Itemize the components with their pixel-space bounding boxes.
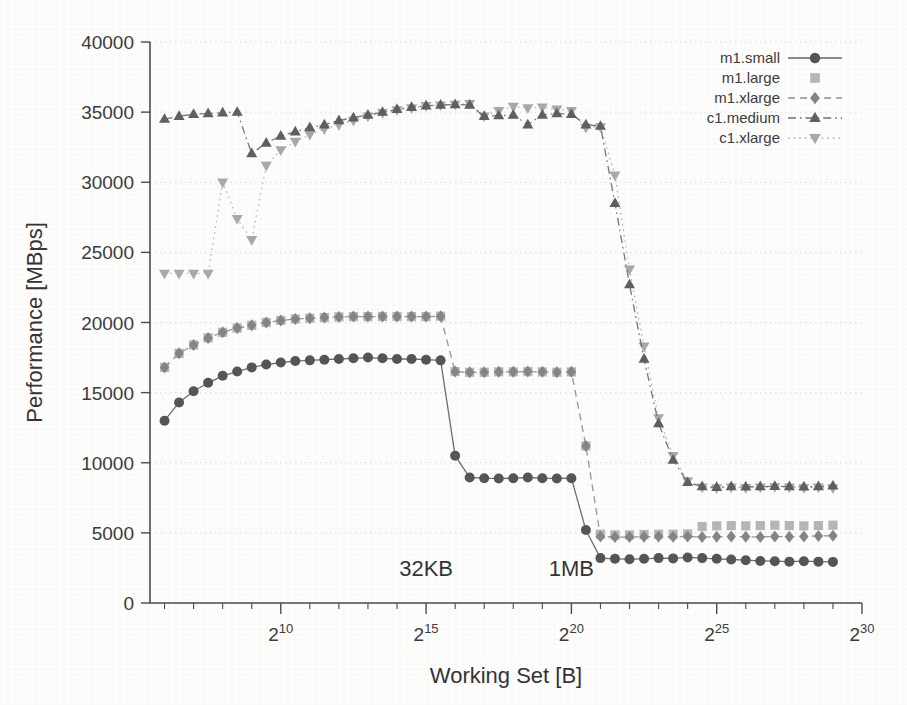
y-tick-label: 10000	[81, 453, 134, 474]
marker-circle	[784, 557, 794, 567]
marker-diamond	[727, 530, 736, 542]
marker-triangle-up	[668, 454, 679, 464]
marker-circle	[625, 554, 635, 564]
x-tick-base: 2	[414, 624, 425, 645]
marker-square	[727, 521, 736, 530]
marker-circle	[639, 554, 649, 564]
marker-circle	[523, 472, 533, 482]
y-tick-label: 20000	[81, 313, 134, 334]
marker-square	[698, 522, 707, 531]
marker-circle	[203, 378, 213, 388]
series-line-c1-xlarge	[165, 104, 833, 488]
marker-triangle-down	[217, 179, 228, 189]
series-m1-small	[160, 353, 838, 567]
marker-circle	[407, 354, 417, 364]
marker-triangle-down	[261, 162, 272, 172]
marker-circle	[290, 356, 300, 366]
x-tick-exponent: 10	[279, 621, 293, 636]
marker-square	[814, 521, 823, 530]
marker-triangle-up	[203, 108, 214, 118]
marker-circle	[654, 553, 664, 563]
marker-triangle-up	[232, 106, 243, 116]
marker-triangle-down	[246, 236, 257, 246]
marker-circle	[610, 554, 620, 564]
legend-label-m1-small: m1.small	[720, 49, 780, 66]
marker-diamond	[828, 530, 837, 542]
marker-circle	[770, 556, 780, 566]
marker-triangle-down	[624, 265, 635, 275]
y-tick-label: 0	[123, 593, 134, 614]
marker-circle	[741, 555, 751, 565]
marker-triangle-down	[188, 270, 199, 280]
marker-circle	[479, 473, 489, 483]
marker-square	[712, 521, 721, 530]
marker-circle	[363, 353, 373, 363]
x-tick-label: 210	[268, 621, 293, 645]
marker-circle	[813, 557, 823, 567]
marker-circle	[465, 472, 475, 482]
marker-circle	[508, 473, 518, 483]
marker-triangle-up	[217, 107, 228, 117]
series-m1-large	[160, 312, 838, 540]
marker-square	[756, 521, 765, 530]
marker-triangle-down	[522, 104, 533, 114]
marker-circle	[450, 451, 460, 461]
x-tick-base: 2	[704, 624, 715, 645]
marker-circle	[436, 355, 446, 365]
x-tick-base: 2	[559, 624, 570, 645]
series-c1-xlarge	[159, 100, 838, 494]
marker-triangle-down	[232, 215, 243, 225]
y-tick-label: 5000	[92, 523, 134, 544]
marker-triangle-up	[261, 137, 272, 147]
marker-diamond	[814, 530, 823, 542]
marker-circle	[218, 371, 228, 381]
marker-triangle-up	[639, 353, 650, 363]
marker-triangle-down	[639, 343, 650, 353]
x-tick-label: 220	[559, 621, 584, 645]
marker-square	[810, 73, 820, 83]
marker-triangle-down	[159, 270, 170, 280]
marker-triangle-down	[290, 138, 301, 148]
x-tick-label: 230	[849, 621, 874, 645]
marker-diamond	[741, 531, 750, 543]
marker-circle	[421, 355, 431, 365]
marker-circle	[552, 473, 562, 483]
x-tick-exponent: 30	[860, 621, 874, 636]
marker-triangle-up	[275, 130, 286, 140]
marker-circle	[810, 53, 821, 64]
plot-annotations: 32KB1MB	[399, 556, 594, 581]
marker-triangle-up	[493, 110, 504, 120]
legend-label-m1-xlarge: m1.xlarge	[714, 89, 780, 106]
marker-circle	[189, 386, 199, 396]
marker-triangle-up	[188, 108, 199, 118]
marker-circle	[392, 354, 402, 364]
performance-working-set-chart: 0500010000150002000025000300003500040000…	[0, 0, 907, 705]
marker-triangle-down	[203, 270, 214, 280]
x-tick-exponent: 15	[424, 621, 438, 636]
marker-circle	[683, 552, 693, 562]
marker-diamond	[756, 531, 765, 543]
marker-triangle-up	[809, 112, 821, 122]
marker-diamond	[799, 530, 808, 542]
marker-triangle-up	[290, 126, 301, 136]
marker-square	[741, 521, 750, 530]
marker-circle	[712, 554, 722, 564]
y-tick-label: 35000	[81, 102, 134, 123]
marker-circle	[377, 353, 387, 363]
marker-square	[785, 521, 794, 530]
marker-triangle-down	[174, 270, 185, 280]
marker-circle	[348, 353, 358, 363]
y-axis-ticks: 0500010000150002000025000300003500040000	[81, 32, 150, 614]
series-m1-xlarge	[160, 310, 838, 543]
marker-circle	[668, 553, 678, 563]
marker-triangle-up	[537, 109, 548, 119]
marker-circle	[799, 556, 809, 566]
y-tick-label: 15000	[81, 383, 134, 404]
series-c1-medium	[159, 98, 838, 491]
marker-diamond	[712, 531, 721, 543]
marker-circle	[247, 362, 257, 372]
x-tick-exponent: 25	[715, 621, 729, 636]
x-tick-base: 2	[268, 624, 279, 645]
marker-circle	[494, 473, 504, 483]
marker-circle	[697, 553, 707, 563]
